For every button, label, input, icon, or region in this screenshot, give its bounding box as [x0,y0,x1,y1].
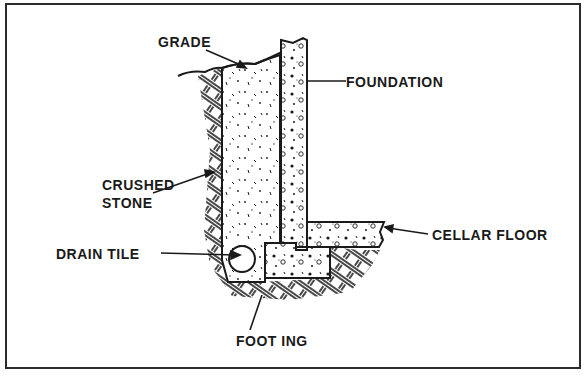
label-grade: GRADE [158,34,211,50]
foundation-cross-section [0,0,585,376]
cellar-floor-slab [307,222,384,247]
label-crushed-stone-line2: STONE [102,195,152,211]
footing [265,243,330,278]
foundation-wall [281,38,307,247]
label-foundation: FOUNDATION [346,74,443,90]
label-cellar-floor: CELLAR FLOOR [432,227,548,243]
label-footing: FOOT ING [236,333,308,349]
label-drain-tile: DRAIN TILE [56,246,140,262]
label-crushed-stone-line1: CRUSHED [102,177,175,193]
